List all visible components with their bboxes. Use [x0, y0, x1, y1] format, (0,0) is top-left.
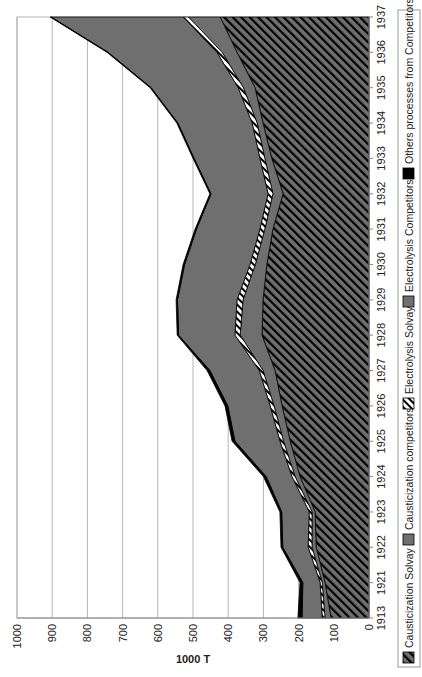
area-series — [50, 17, 369, 618]
legend-item: Electrolysis Solvay — [403, 306, 415, 409]
legend-label: Others processes from Competitors — [403, 0, 415, 164]
x-tick-label: 1923 — [375, 500, 387, 524]
x-tick-label: 1922 — [375, 535, 387, 559]
legend-swatch — [403, 168, 414, 179]
legend-label: Electrolysis Solvay — [403, 306, 415, 394]
y-tick-label: 0 — [363, 624, 375, 630]
y-tick-label: 800 — [81, 624, 93, 642]
x-tick-label: 1913 — [375, 606, 387, 630]
stacked-area-chart: 01002003004005006007008009001000 1913192… — [0, 0, 422, 677]
y-tick-label: 500 — [187, 624, 199, 642]
y-tick-labels: 01002003004005006007008009001000 — [11, 624, 375, 648]
x-tick-label: 1926 — [375, 394, 387, 418]
x-tick-labels: 1913192119221923192419251926192719281929… — [375, 5, 387, 630]
x-tick-label: 1932 — [375, 182, 387, 206]
x-tick-label: 1929 — [375, 288, 387, 312]
y-tick-label: 300 — [257, 624, 269, 642]
y-tick-label: 700 — [117, 624, 129, 642]
x-tick-label: 1928 — [375, 323, 387, 347]
legend-item: Electrolysis Competitors — [403, 179, 415, 307]
y-tick-label: 1000 — [11, 624, 23, 648]
x-tick-label: 1927 — [375, 358, 387, 382]
x-tick-label: 1931 — [375, 217, 387, 241]
legend-swatch — [403, 534, 414, 545]
legend-label: Electrolysis Competitors — [403, 179, 415, 292]
x-tick-label: 1936 — [375, 40, 387, 64]
y-tick-label: 900 — [46, 624, 58, 642]
x-tick-label: 1934 — [375, 111, 387, 135]
x-tick-label: 1924 — [375, 464, 387, 488]
legend-label: Causticization Solvay — [403, 547, 415, 648]
legend-swatch — [403, 296, 414, 307]
x-tick-label: 1921 — [375, 570, 387, 594]
legend-item: Others processes from Competitors — [403, 0, 415, 179]
legend: Causticization SolvayCausticization comp… — [398, 0, 420, 667]
legend-label: Causticization competitors — [403, 407, 415, 530]
y-axis-title: 1000 T — [176, 653, 211, 665]
x-tick-label: 1925 — [375, 429, 387, 453]
legend-swatch — [403, 398, 414, 409]
y-tick-label: 100 — [328, 624, 340, 642]
x-tick-label: 1937 — [375, 5, 387, 29]
y-tick-label: 600 — [152, 624, 164, 642]
x-tick-label: 1930 — [375, 252, 387, 276]
legend-item: Causticization competitors — [403, 407, 415, 545]
y-tick-label: 400 — [222, 624, 234, 642]
legend-swatch — [403, 652, 414, 663]
legend-item: Causticization Solvay — [403, 547, 415, 663]
y-tick-label: 200 — [293, 624, 305, 642]
x-tick-label: 1933 — [375, 146, 387, 170]
x-tick-label: 1935 — [375, 75, 387, 99]
